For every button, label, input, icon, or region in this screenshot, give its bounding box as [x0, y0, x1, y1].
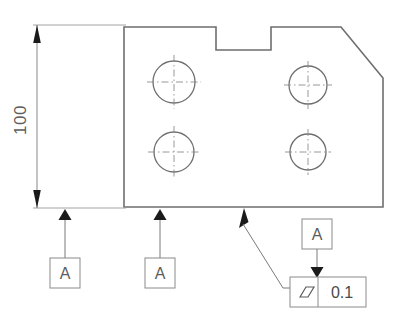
hole-top-left-circle — [153, 61, 195, 103]
datum-a-left-label: A — [60, 265, 71, 282]
feature-control-frame[interactable]: 0.1 — [290, 277, 366, 307]
hole-top-right — [284, 61, 332, 109]
dimension-100-group: 100 — [11, 25, 126, 208]
holes-group — [147, 55, 332, 178]
hole-bottom-right — [285, 129, 331, 175]
dimension-value-100: 100 — [11, 105, 30, 135]
datum-feature-a-reference[interactable]: A — [302, 219, 332, 278]
feature-control-leader-slant — [243, 224, 283, 288]
dimension-arrowhead-bottom — [33, 190, 41, 208]
hole-bottom-left — [148, 126, 200, 178]
feature-control-leader-group — [239, 208, 290, 288]
part-outline-group — [124, 27, 383, 207]
technical-drawing-canvas: 100 A A — [0, 0, 406, 316]
datum-a-reference-label: A — [312, 226, 323, 243]
datum-feature-a-middle[interactable]: A — [145, 209, 175, 288]
part-outline-path — [124, 27, 383, 207]
feature-control-tolerance-value: 0.1 — [331, 284, 353, 301]
datum-feature-a-left[interactable]: A — [50, 209, 80, 288]
datum-a-middle-triangle — [154, 209, 167, 220]
dimension-arrowhead-top — [33, 25, 41, 43]
feature-control-frame-outer[interactable] — [290, 277, 366, 307]
datum-a-reference-triangle — [311, 267, 324, 278]
hole-top-left — [147, 55, 201, 109]
engineering-drawing-svg: 100 A A — [0, 0, 406, 316]
datum-a-left-triangle — [59, 209, 72, 220]
datum-a-middle-label: A — [155, 265, 166, 282]
